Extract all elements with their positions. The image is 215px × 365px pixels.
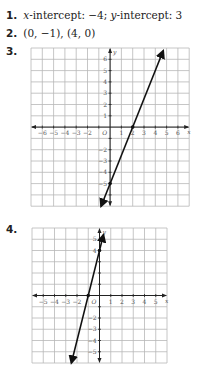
x-tick-label: 3 bbox=[131, 298, 135, 305]
x-tick-label: −4 bbox=[50, 298, 59, 305]
x-tick-label: 6 bbox=[176, 129, 180, 136]
y-tick-label: −2 bbox=[98, 146, 107, 153]
plotted-point bbox=[86, 294, 90, 298]
x-tick-label: −2 bbox=[73, 298, 82, 305]
x-tick-label: 5 bbox=[154, 298, 158, 305]
x-tick-label: 5 bbox=[165, 129, 169, 136]
x-tick-label: 2 bbox=[120, 298, 124, 305]
origin-label: O bbox=[92, 298, 97, 305]
y-tick-label: −2 bbox=[88, 314, 97, 321]
y-axis-label: y bbox=[102, 228, 107, 236]
x-tick-label: −2 bbox=[83, 129, 92, 136]
origin-label: O bbox=[102, 129, 107, 136]
x-tick-label: 4 bbox=[143, 298, 147, 305]
y-tick-label: −5 bbox=[98, 180, 107, 187]
x-tick-label: −3 bbox=[72, 129, 81, 136]
x-tick-label: 1 bbox=[119, 129, 123, 136]
y-tick-label: 6 bbox=[103, 55, 107, 62]
y-tick-label: −3 bbox=[88, 325, 97, 332]
y-tick-label: 5 bbox=[93, 235, 97, 242]
x-tick-label: −3 bbox=[61, 298, 70, 305]
y-axis-label: y bbox=[112, 48, 117, 56]
x-tick-label: −5 bbox=[49, 129, 58, 136]
x-axis-label: x bbox=[165, 297, 169, 304]
y-tick-label: 2 bbox=[103, 101, 107, 108]
x-tick-label: −5 bbox=[39, 298, 48, 305]
graph-3: −6−5−4−3−2123456654321−2−3−4−5Oxy−5−4−3−… bbox=[0, 0, 215, 365]
plotted-point bbox=[131, 125, 135, 129]
y-tick-label: −5 bbox=[88, 348, 97, 355]
plotted-point bbox=[98, 249, 102, 253]
y-tick-label: 4 bbox=[93, 247, 97, 254]
graph-4: −5−4−3−21234554−2−3−4−5Oxy bbox=[32, 228, 169, 363]
y-tick-label: 5 bbox=[103, 67, 107, 74]
x-tick-label: 1 bbox=[109, 298, 113, 305]
x-axis-label: x bbox=[187, 128, 191, 135]
plotted-point bbox=[108, 182, 112, 186]
x-tick-label: 4 bbox=[153, 129, 157, 136]
y-tick-label: −3 bbox=[98, 157, 107, 164]
y-tick-label: 1 bbox=[103, 112, 107, 119]
y-tick-label: −4 bbox=[98, 168, 107, 175]
y-tick-label: 4 bbox=[103, 78, 107, 85]
y-tick-label: −4 bbox=[88, 337, 97, 344]
y-tick-label: 3 bbox=[103, 89, 107, 96]
x-tick-label: 3 bbox=[142, 129, 146, 136]
graph-3: −6−5−4−3−2123456654321−2−3−4−5Oxy bbox=[31, 48, 191, 206]
x-tick-label: −4 bbox=[60, 129, 69, 136]
x-tick-label: −6 bbox=[38, 129, 47, 136]
